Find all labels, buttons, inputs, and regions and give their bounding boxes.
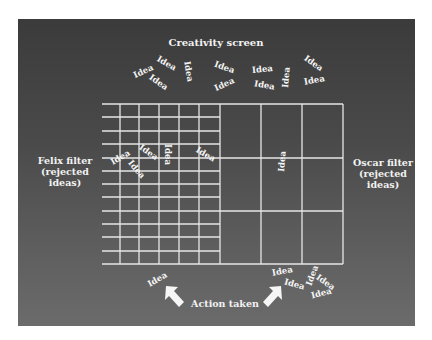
idea-in-grid: Idea (163, 144, 172, 165)
idea-in-grid: Idea (277, 151, 288, 173)
oscar-filter-label: Oscar filter (rejected ideas) (346, 157, 420, 190)
idea-top: Idea (281, 67, 292, 89)
idea-top: Idea (252, 64, 274, 75)
action-taken-label: Action taken (190, 298, 260, 309)
arrow-up-left-icon (165, 286, 184, 307)
felix-filter-label: Felix filter (rejected ideas) (30, 155, 100, 188)
diagram-title: Creativity screen (0, 37, 432, 48)
arrow-up-right-icon (263, 286, 282, 307)
